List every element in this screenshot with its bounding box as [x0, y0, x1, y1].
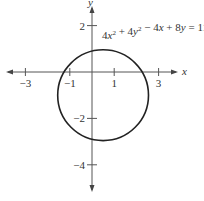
x-tick-label: 1	[111, 77, 117, 89]
y-axis-down-arrow-icon	[90, 185, 95, 192]
circle-curve	[58, 50, 149, 141]
x-ticks: −3−113	[20, 68, 162, 89]
x-tick-label: −3	[20, 77, 32, 89]
x-axis-right-arrow-icon	[171, 70, 178, 75]
y-tick-label: −2	[73, 112, 85, 124]
y-axis-label: y	[87, 0, 93, 8]
graph-plot: −3−113 2−2−4 x y 4x2 + 4y2 − 4x + 8y = 1…	[0, 0, 204, 201]
x-tick-label: −1	[64, 77, 76, 89]
y-ticks: 2−2−4	[73, 20, 97, 171]
y-tick-label: −4	[73, 159, 85, 171]
y-tick-label: 2	[80, 20, 86, 32]
axes	[6, 6, 178, 192]
x-axis-label: x	[181, 65, 187, 77]
x-axis-left-arrow-icon	[6, 70, 13, 75]
x-tick-label: 3	[156, 77, 162, 89]
equation-label: 4x2 + 4y2 − 4x + 8y = 11	[102, 21, 204, 41]
